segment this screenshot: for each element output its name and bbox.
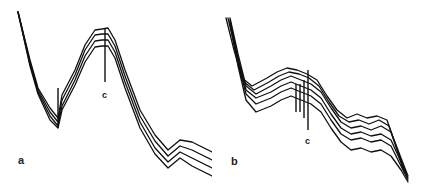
curve-2 (18, 12, 212, 160)
marker-label-c-a: c (102, 90, 107, 100)
panel-b: c b (212, 0, 425, 188)
curve-4 (230, 20, 408, 178)
curve-5 (230, 22, 408, 180)
chart-panel-b-plot (212, 0, 425, 188)
curve-4 (18, 12, 212, 176)
marker-label-c-b: c (305, 136, 310, 146)
curve-1 (18, 12, 212, 152)
panel-label-b: b (231, 155, 238, 167)
panel-a: c a (0, 0, 212, 188)
panel-label-a: a (18, 154, 24, 166)
curve-3 (18, 12, 212, 168)
